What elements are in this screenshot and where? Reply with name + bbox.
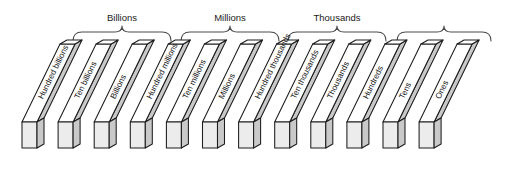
bar-front-side-face [37, 118, 44, 148]
bar-front-face [419, 122, 434, 148]
place-value-chart-figure: Billions Millions Thousands Hundred bill… [0, 0, 512, 169]
group-label-billions: Billions [107, 12, 137, 23]
bar-front-side-face [218, 118, 225, 148]
bar-front-side-face [290, 118, 297, 148]
bar-front-side-face [326, 118, 333, 148]
bar-front-face [166, 122, 181, 148]
bar-front-face [94, 122, 109, 148]
bar-front-face [275, 122, 290, 148]
place-value-bars: Hundred billionsTen billionsBillionsHund… [22, 32, 479, 148]
bar-front-face [347, 122, 362, 148]
group-label-thousands: Thousands [313, 12, 360, 23]
bar-front-side-face [109, 118, 116, 148]
bar-front-side-face [434, 118, 441, 148]
bar-front-side-face [398, 118, 405, 148]
bar-front-face [383, 122, 398, 148]
brace-ones [397, 26, 491, 41]
bar-front-face [130, 122, 145, 148]
bar-front-side-face [145, 118, 152, 148]
group-ones [397, 26, 491, 41]
group-label-millions: Millions [214, 12, 246, 23]
bar-front-side-face [254, 118, 261, 148]
bar-front-side-face [362, 118, 369, 148]
bar-front-face [22, 122, 37, 148]
place-value-chart-svg: Billions Millions Thousands Hundred bill… [0, 0, 512, 169]
bar-front-side-face [181, 118, 188, 148]
bar-front-face [58, 122, 73, 148]
group-millions: Millions [181, 12, 279, 41]
bar-front-side-face [73, 118, 80, 148]
group-billions: Billions [73, 12, 171, 41]
brace-thousands [288, 26, 386, 41]
bar-front-face [311, 122, 326, 148]
brace-billions [73, 26, 171, 41]
bar-front-face [239, 122, 254, 148]
bar-front-face [203, 122, 218, 148]
group-thousands: Thousands [288, 12, 386, 41]
brace-millions [181, 26, 279, 41]
